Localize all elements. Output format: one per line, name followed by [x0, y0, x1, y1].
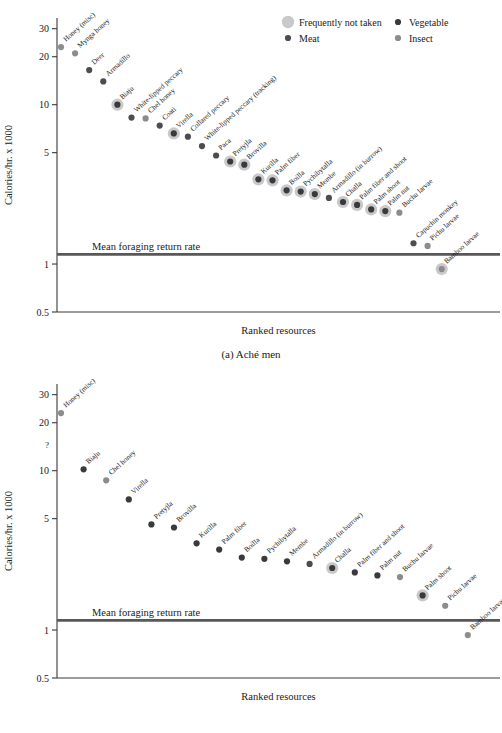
- scatter-plot-ache-women: 302010510.5?Calories/hr. x 1000Mean fora…: [0, 370, 502, 712]
- y-axis-label: Calories/hr. x 1000: [3, 491, 14, 571]
- legend: Frequently not takenMeatVegetableInsect: [282, 16, 449, 44]
- x-axis-label: Ranked resources: [241, 691, 315, 702]
- data-point-marker: [143, 115, 149, 121]
- data-point-marker: [312, 191, 318, 197]
- data-point-label: Palm shoot: [423, 563, 453, 592]
- data-point-marker: [298, 188, 304, 194]
- scatter-plot-ache-men: 302010510.5Calories/hr. x 1000Mean forag…: [0, 0, 502, 348]
- data-point-marker: [213, 152, 219, 158]
- data-point-marker: [396, 210, 402, 216]
- mean-foraging-return-label: Mean foraging return rate: [92, 607, 200, 618]
- data-point: Chel honey: [103, 448, 138, 484]
- data-point-label: Pretyjla: [152, 499, 175, 521]
- data-point: Challa: [326, 545, 353, 575]
- legend-label: Vegetable: [409, 17, 449, 28]
- data-point-marker: [382, 208, 388, 214]
- data-point-label: Chel honey: [107, 448, 138, 477]
- data-point-label: Bamboo larvae: [442, 229, 481, 265]
- y-axis-label: Calories/hr. x 1000: [3, 125, 14, 205]
- data-point-marker: [241, 162, 247, 168]
- data-point-label: Bamboo larvae: [468, 595, 502, 631]
- data-point-marker: [81, 466, 87, 472]
- data-point-marker: [227, 158, 233, 164]
- legend-label: Meat: [299, 33, 320, 44]
- data-point-marker: [157, 122, 163, 128]
- data-point-marker: [194, 540, 200, 546]
- data-point-marker: [352, 569, 358, 575]
- data-point-marker: [465, 632, 471, 638]
- y-axis-tick-label: 0.5: [37, 673, 50, 684]
- data-point-marker: [307, 561, 313, 567]
- y-axis-tick-label: 30: [39, 23, 49, 34]
- data-point-label: Pichu larvae: [446, 571, 479, 602]
- data-point-marker: [171, 524, 177, 530]
- data-point-marker: [368, 206, 374, 212]
- y-axis-tick-label: 5: [44, 147, 49, 158]
- y-axis-tick-label: 20: [39, 51, 49, 62]
- mean-foraging-return-label: Mean foraging return rate: [92, 241, 200, 252]
- data-point-marker: [114, 102, 120, 108]
- data-point-label: Biaju: [118, 84, 136, 102]
- data-point: Membe: [284, 536, 310, 564]
- y-axis-tick-label: 10: [39, 465, 49, 476]
- y-axis-tick-label: 5: [44, 513, 49, 524]
- data-point-marker: [284, 187, 290, 193]
- data-point: Bamboo larvae: [436, 229, 481, 275]
- data-point-marker: [199, 143, 205, 149]
- legend-marker-insect: [395, 35, 401, 41]
- data-point-marker: [420, 592, 426, 598]
- legend-marker-meat: [285, 35, 291, 41]
- data-point-marker: [340, 199, 346, 205]
- data-point-marker: [100, 78, 106, 84]
- data-point-marker: [72, 50, 78, 56]
- data-point-marker: [216, 546, 222, 552]
- data-point: Pretyjla: [148, 499, 175, 528]
- data-point-label: Membe: [287, 536, 310, 558]
- y-axis-tick-label: 20: [39, 417, 49, 428]
- data-point: Bamboo larvae: [465, 595, 502, 638]
- data-point-marker: [439, 266, 445, 272]
- data-point-marker: [58, 410, 64, 416]
- data-point-label: Buchu larvae: [400, 541, 435, 574]
- figure-panel-ache-men: 302010510.5Calories/hr. x 1000Mean forag…: [0, 0, 502, 370]
- data-point-label: Boilla: [242, 535, 262, 554]
- data-point-label: Armadillo: [104, 51, 133, 78]
- data-point-label: Biaju: [84, 448, 102, 466]
- data-point-marker: [326, 195, 332, 201]
- data-point-marker: [128, 114, 134, 120]
- data-point: Brovilla: [171, 501, 199, 531]
- data-point-marker: [86, 67, 92, 73]
- legend-marker-vegetable: [395, 19, 401, 25]
- data-point-marker: [425, 243, 431, 249]
- data-point-label: Paca: [216, 136, 233, 152]
- legend-marker-frequently-not-taken: [282, 16, 294, 28]
- data-point-marker: [58, 44, 64, 50]
- y-axis-tick-label: 30: [39, 389, 49, 400]
- data-point-label: Honey (misc): [61, 376, 97, 410]
- data-point: Virella: [126, 475, 151, 502]
- data-point-marker: [171, 130, 177, 136]
- y-axis-tick-label: 1: [44, 259, 49, 270]
- data-point: Paca: [213, 136, 233, 159]
- data-point-marker: [185, 134, 191, 140]
- data-point: Honey (misc): [58, 376, 98, 416]
- figure-panel-ache-women: 302010510.5?Calories/hr. x 1000Mean fora…: [0, 370, 502, 733]
- x-axis-label: Ranked resources: [241, 325, 315, 336]
- data-point-label: Deer: [90, 50, 107, 67]
- data-point: Pichu larvae: [442, 571, 478, 609]
- data-point-label: Palm nut: [378, 548, 403, 572]
- data-point-label: Virella: [129, 475, 150, 495]
- data-point-label: Challa: [333, 545, 354, 565]
- data-point-marker: [126, 496, 132, 502]
- legend-label: Frequently not taken: [299, 17, 382, 28]
- data-point-marker: [239, 554, 245, 560]
- data-point-marker: [354, 202, 360, 208]
- axis-break-marker: ?: [45, 440, 49, 450]
- data-point-marker: [329, 565, 335, 571]
- data-point-marker: [269, 177, 275, 183]
- data-point-marker: [255, 176, 261, 182]
- data-point-marker: [410, 240, 416, 246]
- data-point-marker: [284, 558, 290, 564]
- data-point-marker: [103, 477, 109, 483]
- data-point: Buchu larvae: [397, 541, 435, 580]
